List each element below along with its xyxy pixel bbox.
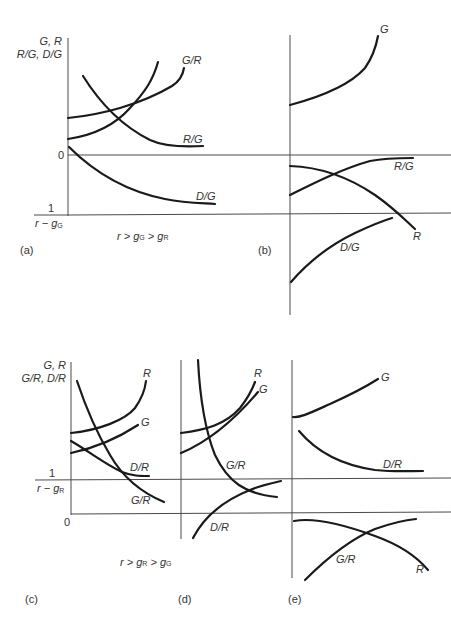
panel-a-ylabel-line1: G, R bbox=[39, 35, 62, 47]
curve-c-g bbox=[71, 425, 138, 453]
curve-e-g bbox=[293, 379, 378, 417]
panel-label-a: (a) bbox=[20, 244, 33, 256]
baseline-top-denominator: r − gG bbox=[35, 217, 63, 229]
curve-b-r bbox=[290, 166, 415, 229]
curve-d-g-over-r bbox=[198, 360, 277, 497]
zero-line-bottom bbox=[71, 512, 451, 514]
panel-label-c: (c) bbox=[25, 593, 38, 605]
curve-e-g-over-r bbox=[305, 519, 416, 580]
line-one-over-r-minus-gr bbox=[35, 478, 451, 480]
label-c-d-over-r: D/R bbox=[130, 461, 149, 473]
panel-e: G D/R R G/R (e) bbox=[288, 360, 428, 605]
label-e-g: G bbox=[381, 371, 390, 383]
label-d-g-over-r: G/R bbox=[226, 459, 246, 471]
label-d-r: R bbox=[254, 367, 262, 379]
panel-label-d: (d) bbox=[178, 593, 191, 605]
diagram-canvas: G, R R/G, D/G 0 1 r − gG G/R R/G D/G r >… bbox=[0, 0, 451, 625]
baseline-top bbox=[68, 213, 451, 215]
curve-a-d-over-g bbox=[69, 147, 215, 204]
panel-label-e: (e) bbox=[288, 593, 301, 605]
label-c-g-over-r: G/R bbox=[131, 494, 151, 506]
curve-e-r bbox=[294, 520, 428, 570]
panel-c-ylabel-line2: G/R, D/R bbox=[21, 372, 66, 384]
label-a-g-over-r: G/R bbox=[182, 54, 202, 66]
baseline-bottom-numerator: 1 bbox=[49, 467, 55, 479]
curve-e-d-over-r bbox=[299, 431, 423, 471]
label-e-d-over-r: D/R bbox=[383, 458, 402, 470]
condition-top: r > gG > gR bbox=[117, 230, 169, 242]
panel-b: G R/G R D/G (b) bbox=[258, 23, 421, 315]
label-a-d-over-g: D/G bbox=[196, 190, 216, 202]
label-e-r: R bbox=[416, 563, 424, 575]
panel-label-b: (b) bbox=[258, 244, 271, 256]
baseline-bottom-denominator: r − gR bbox=[37, 482, 64, 494]
label-e-g-over-r: G/R bbox=[336, 553, 356, 565]
zero-label-bottom: 0 bbox=[64, 516, 70, 528]
label-a-r-over-g: R/G bbox=[183, 133, 203, 145]
label-b-d-over-g: D/G bbox=[340, 241, 360, 253]
panel-c-ylabel-line1: G, R bbox=[43, 359, 66, 371]
baseline-top-numerator: 1 bbox=[48, 202, 54, 214]
panel-d: R G G/R D/R (d) bbox=[178, 360, 281, 605]
panel-a: G, R R/G, D/G 0 1 r − gG G/R R/G D/G r >… bbox=[17, 35, 451, 256]
zero-label-top: 0 bbox=[58, 149, 64, 161]
curve-b-g bbox=[290, 36, 378, 105]
label-b-g: G bbox=[380, 23, 389, 35]
curve-a-g-over-r bbox=[68, 68, 184, 118]
label-d-g: G bbox=[259, 383, 268, 395]
condition-bottom: r > gR > gG bbox=[120, 556, 172, 568]
curve-c-r bbox=[71, 381, 146, 433]
label-b-r-over-g: R/G bbox=[394, 160, 414, 172]
label-d-d-over-r: D/R bbox=[210, 521, 229, 533]
label-c-r: R bbox=[143, 367, 151, 379]
panel-a-ylabel-line2: R/G, D/G bbox=[17, 48, 63, 60]
curve-d-d-over-r bbox=[193, 481, 281, 538]
label-b-r: R bbox=[413, 230, 421, 242]
label-c-g: G bbox=[141, 416, 150, 428]
curve-c-g-over-r bbox=[77, 381, 164, 502]
